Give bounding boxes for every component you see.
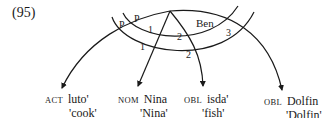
case-label: ACT [45, 95, 63, 105]
gloss: 'Dolfin' [264, 109, 322, 118]
form: Dolfin [287, 94, 318, 108]
dependent-luto: ACTluto' 'cook' [45, 93, 97, 118]
form: Nina [144, 92, 167, 106]
gloss: 'fish' [184, 107, 228, 118]
label-3: 3 [226, 28, 231, 38]
label-2-lower: 2 [186, 50, 191, 60]
label-1-lower: 1 [140, 42, 145, 52]
label-p-inner: P [134, 14, 140, 24]
label-1-upper: 1 [148, 25, 153, 35]
dependent-nina: NOMNina 'Nina' [118, 93, 168, 118]
dependent-isda: OBLisda' 'fish' [184, 93, 228, 118]
case-label: OBL [184, 95, 202, 105]
label-p-outer: P [119, 20, 125, 30]
case-label: OBL [264, 97, 282, 107]
form: isda' [207, 92, 229, 106]
label-ben: Ben [196, 18, 214, 28]
case-label: NOM [118, 95, 139, 105]
label-2-upper: 2 [177, 32, 182, 42]
gloss: 'cook' [45, 107, 97, 118]
gloss: 'Nina' [118, 107, 168, 118]
dependent-dolfin: OBLDolfin 'Dolfin' [264, 95, 322, 118]
form: luto' [68, 92, 89, 106]
